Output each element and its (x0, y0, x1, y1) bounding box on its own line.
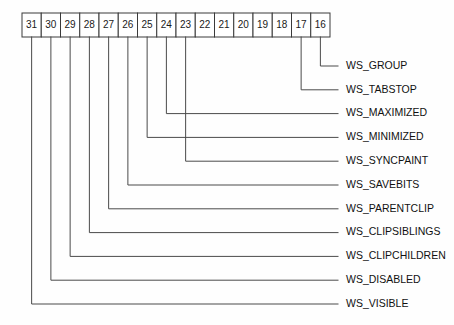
leader-line-ws-minimized (147, 37, 338, 137)
leader-line-ws-group (320, 37, 338, 66)
bitfield-diagram: 31302928272625242322212019181716 WS_GROU… (0, 0, 454, 325)
leader-line-ws-savebits (128, 37, 338, 185)
flag-label-ws-clipchildren: WS_CLIPCHILDREN (346, 249, 446, 261)
bit-number-28: 28 (84, 19, 96, 30)
flag-label-ws-clipsiblings: WS_CLIPSIBLINGS (346, 225, 441, 237)
flag-label-group: WS_GROUPWS_TABSTOPWS_MAXIMIZEDWS_MINIMIZ… (346, 59, 446, 309)
bit-number-26: 26 (122, 19, 134, 30)
bit-number-24: 24 (161, 19, 173, 30)
leader-line-ws-maximized (166, 37, 338, 114)
bit-number-31: 31 (26, 19, 38, 30)
bit-number-23: 23 (180, 19, 192, 30)
leader-line-group (32, 37, 338, 304)
bit-number-27: 27 (103, 19, 115, 30)
leader-line-ws-visible (32, 37, 338, 304)
flag-label-ws-visible: WS_VISIBLE (346, 297, 408, 309)
flag-label-ws-parentclip: WS_PARENTCLIP (346, 202, 434, 214)
bitfield-svg-canvas: 31302928272625242322212019181716 WS_GROU… (0, 0, 454, 325)
bit-number-29: 29 (65, 19, 77, 30)
bit-cell-row: 31302928272625242322212019181716 (22, 13, 330, 37)
bit-number-16: 16 (315, 19, 327, 30)
bit-number-20: 20 (238, 19, 250, 30)
bit-number-19: 19 (257, 19, 269, 30)
leader-line-ws-disabled (51, 37, 338, 280)
bit-number-18: 18 (276, 19, 288, 30)
flag-label-ws-maximized: WS_MAXIMIZED (346, 106, 428, 118)
bit-number-25: 25 (142, 19, 154, 30)
flag-label-ws-syncpaint: WS_SYNCPAINT (346, 154, 429, 166)
bit-number-21: 21 (219, 19, 231, 30)
leader-line-ws-syncpaint (186, 37, 338, 161)
bit-number-30: 30 (45, 19, 57, 30)
flag-label-ws-tabstop: WS_TABSTOP (346, 83, 417, 95)
flag-label-ws-minimized: WS_MINIMIZED (346, 130, 424, 142)
leader-line-ws-parentclip (109, 37, 338, 209)
flag-label-ws-disabled: WS_DISABLED (346, 273, 421, 285)
flag-label-ws-savebits: WS_SAVEBITS (346, 178, 419, 190)
leader-line-ws-clipchildren (70, 37, 338, 256)
bit-number-22: 22 (199, 19, 211, 30)
bit-number-17: 17 (296, 19, 308, 30)
flag-label-ws-group: WS_GROUP (346, 59, 407, 71)
leader-line-ws-tabstop (301, 37, 338, 90)
